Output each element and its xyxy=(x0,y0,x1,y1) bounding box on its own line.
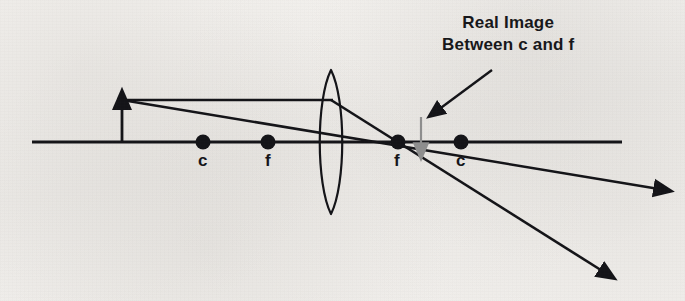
marker-label-c-left: c xyxy=(198,152,207,169)
ray-diagram-canvas: Real Image Between c and f c f f c xyxy=(0,0,685,301)
marker-f-right xyxy=(391,135,406,150)
annotation-line-2: Between c and f xyxy=(442,34,574,56)
annotation-caption: Real Image Between c and f xyxy=(442,12,574,56)
marker-c-right xyxy=(454,135,469,150)
annotation-line-1: Real Image xyxy=(442,12,574,34)
marker-f-left xyxy=(261,135,276,150)
marker-label-c-right: c xyxy=(456,152,465,169)
annotation-pointer-arrow xyxy=(438,70,492,110)
marker-c-left xyxy=(196,135,211,150)
optics-diagram-svg xyxy=(0,0,685,301)
refracted-through-focus-ray xyxy=(331,100,604,272)
marker-label-f-left: f xyxy=(265,152,271,169)
marker-label-f-right: f xyxy=(394,152,400,169)
